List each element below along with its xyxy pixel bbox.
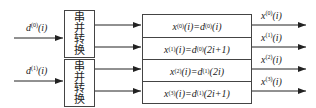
mapping-row-0: x(0)(i)=d(0)(i) [143, 15, 251, 37]
serial-parallel-converter-1: 串并转换 [64, 59, 95, 107]
input-label-0: d(0)(i) [26, 22, 47, 33]
input-label-1: d(1)(i) [26, 65, 47, 76]
serial-parallel-diagram: d(0)(i) d(1)(i) 串并转换 串并转换 x(0)(i)=d(0)(i… [0, 0, 316, 108]
mapping-row-2: x(2)(i)=d(1)(2i) [143, 59, 251, 82]
serial-parallel-converter-0: 串并转换 [64, 10, 95, 58]
output-label-0: x(0)(i) [261, 10, 282, 21]
output-label-3: x(3)(i) [261, 76, 282, 87]
mapping-table: x(0)(i)=d(0)(i) x(1)(i)=d(0)(2i+1) x(2)(… [142, 14, 252, 104]
output-label-2: x(2)(i) [261, 54, 282, 65]
mapping-row-1: x(1)(i)=d(0)(2i+1) [143, 37, 251, 60]
output-label-1: x(1)(i) [261, 32, 282, 43]
mapping-row-3: x(3)(i)=d(1)(2i+1) [143, 81, 251, 104]
